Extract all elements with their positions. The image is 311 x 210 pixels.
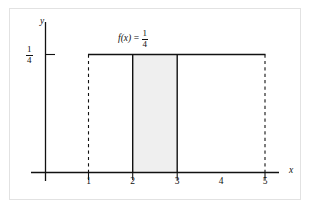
y-tick-label-quarter: 1 4 <box>26 45 33 65</box>
function-name: f(x) <box>118 34 131 44</box>
x-tick-label-3: 3 <box>169 176 185 186</box>
function-annotation: f(x) = 1 4 <box>118 29 148 49</box>
equals-sign: = <box>133 34 140 44</box>
fraction-one-quarter: 1 4 <box>26 45 33 65</box>
x-tick-label-4: 4 <box>213 176 229 186</box>
x-tick-label-2: 2 <box>125 176 141 186</box>
figure-root: y x 1 4 f(x) = 1 4 1 2 3 4 5 <box>0 0 311 210</box>
x-axis-label: x <box>289 166 293 176</box>
fraction-numerator: 1 <box>26 45 33 56</box>
function-value-fraction: 1 4 <box>142 29 149 49</box>
function-value-denominator: 4 <box>143 40 148 50</box>
y-axis-label: y <box>40 17 44 27</box>
fraction-denominator: 4 <box>27 56 32 66</box>
x-tick-label-5: 5 <box>257 176 273 186</box>
x-tick-label-1: 1 <box>81 176 97 186</box>
function-value-numerator: 1 <box>142 29 149 40</box>
shaded-region <box>133 55 178 173</box>
